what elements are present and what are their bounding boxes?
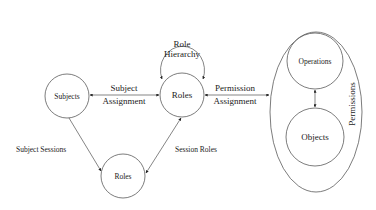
session-roles-edge-label: Session Roles bbox=[175, 145, 217, 154]
session-roles-label: Roles bbox=[114, 172, 131, 181]
permission-assignment-label-2: Assignment bbox=[213, 96, 257, 106]
subject-assignment-label-1: Subject bbox=[111, 83, 138, 93]
roles-label: Roles bbox=[172, 90, 193, 100]
role-hierarchy-label-1: Role bbox=[174, 39, 191, 49]
subjects-label: Subjects bbox=[54, 92, 79, 101]
permissions-group: Permissions Operations Objects bbox=[270, 32, 362, 192]
roles-node: Roles bbox=[160, 73, 204, 117]
operations-label: Operations bbox=[299, 57, 332, 66]
rbac-diagram: Role Hierarchy Subjects Roles Roles Subj… bbox=[0, 0, 376, 210]
subjects-node: Subjects bbox=[45, 74, 89, 118]
session-roles-edge: Session Roles bbox=[146, 118, 217, 173]
subject-sessions-edge: Subject Sessions bbox=[16, 118, 101, 171]
permission-assignment-edge: Permission Assignment bbox=[205, 83, 269, 106]
subject-assignment-label-2: Assignment bbox=[102, 96, 146, 106]
permission-assignment-label-1: Permission bbox=[215, 83, 256, 93]
role-hierarchy-label-2: Hierarchy bbox=[164, 49, 200, 59]
objects-label: Objects bbox=[301, 132, 329, 142]
permissions-label: Permissions bbox=[347, 82, 357, 126]
subject-assignment-edge: Subject Assignment bbox=[90, 83, 159, 106]
subject-sessions-label: Subject Sessions bbox=[16, 145, 66, 154]
session-roles-node: Roles bbox=[101, 154, 145, 198]
